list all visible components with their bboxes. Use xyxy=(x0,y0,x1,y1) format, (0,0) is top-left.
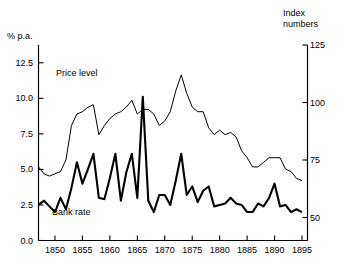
y-tick-left-2.5: 2.5 xyxy=(3,200,33,210)
x-tick-1890: 1890 xyxy=(260,245,290,255)
x-axis-ticks xyxy=(55,236,302,241)
axis-lines xyxy=(39,45,308,241)
series-line-bank-rate xyxy=(39,97,303,212)
y-axis-left-ticks xyxy=(39,63,44,241)
y-tick-left-0.0: 0.0 xyxy=(3,236,33,246)
y-tick-right-125: 125 xyxy=(310,40,338,50)
x-tick-1860: 1860 xyxy=(95,245,125,255)
y-tick-left-10.0: 10.0 xyxy=(3,93,33,103)
y-tick-left-12.5: 12.5 xyxy=(3,58,33,68)
y-tick-right-100: 100 xyxy=(310,98,338,108)
plot-area xyxy=(0,0,344,272)
y-tick-right-50: 50 xyxy=(310,213,338,223)
x-tick-1875: 1875 xyxy=(177,245,207,255)
x-tick-1885: 1885 xyxy=(232,245,262,255)
y-tick-left-7.5: 7.5 xyxy=(3,129,33,139)
y-tick-right-75: 75 xyxy=(310,155,338,165)
y-axis-right-ticks xyxy=(303,45,308,218)
chart-figure: % p.a. Index numbers Price level Bank ra… xyxy=(0,0,344,272)
x-tick-1895: 1895 xyxy=(287,245,317,255)
x-tick-1855: 1855 xyxy=(67,245,97,255)
x-tick-1850: 1850 xyxy=(40,245,70,255)
x-tick-1880: 1880 xyxy=(205,245,235,255)
x-tick-1865: 1865 xyxy=(122,245,152,255)
y-tick-left-5.0: 5.0 xyxy=(3,164,33,174)
x-tick-1870: 1870 xyxy=(150,245,180,255)
